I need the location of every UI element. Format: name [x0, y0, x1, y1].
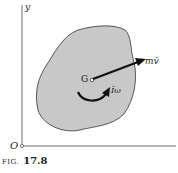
caption-number: 17.8 [23, 155, 47, 166]
y-axis-label: y [25, 2, 30, 12]
figure-caption: FIG.17.8 [2, 155, 48, 166]
momentum-diagram [0, 0, 178, 173]
angular-momentum-label: Īω [111, 86, 121, 95]
origin-point [20, 144, 23, 147]
momentum-label: mv̄ [145, 56, 159, 66]
mass-center-label: G [81, 74, 88, 84]
caption-prefix: FIG. [2, 158, 19, 166]
origin-label: O [10, 140, 18, 151]
